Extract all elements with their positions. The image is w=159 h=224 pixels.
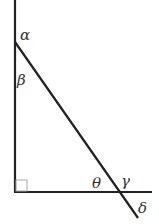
angle-diagram: α β θ γ δ — [0, 0, 159, 224]
angle-label-beta: β — [16, 71, 26, 89]
right-angle-marker — [16, 180, 27, 191]
angle-label-gamma: γ — [121, 172, 130, 190]
angle-label-theta: θ — [92, 174, 101, 192]
angle-label-delta: δ — [138, 199, 147, 217]
angle-label-alpha: α — [20, 26, 30, 44]
